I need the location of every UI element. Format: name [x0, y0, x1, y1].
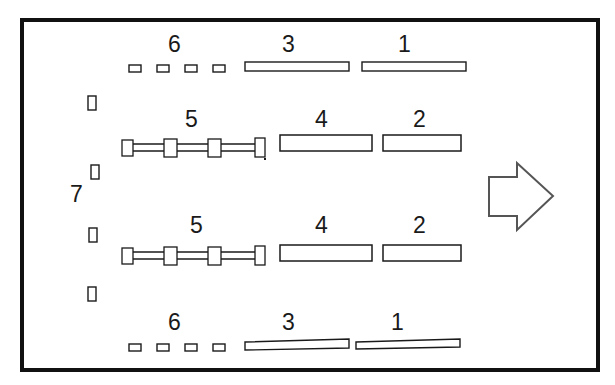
collar-mid-2: [208, 139, 221, 157]
callout-label-2-upper: 2: [413, 108, 426, 131]
figure-root: 6 3 1 5 4 2 7 5 4 2 6 3 1: [0, 0, 615, 385]
collar-mid-1: [164, 139, 177, 157]
callout-label-1-top: 1: [398, 33, 411, 56]
callout-label-5-upper: 5: [185, 108, 198, 131]
callout-label-4-lower: 4: [315, 214, 328, 237]
callout-label-7-left: 7: [70, 183, 83, 206]
callout-label-2-lower: 2: [413, 214, 426, 237]
callout-label-5-lower: 5: [190, 214, 203, 237]
collar-mid-2: [208, 247, 221, 265]
collar-left: [122, 248, 133, 264]
page-background: [0, 0, 615, 385]
collar-right: [255, 246, 265, 265]
callout-label-3-bottom: 3: [282, 311, 295, 334]
callout-label-4-upper: 4: [315, 108, 328, 131]
callout-label-6-top: 6: [168, 33, 181, 56]
callout-label-1-bottom: 1: [391, 311, 404, 334]
callout-label-6-bottom: 6: [168, 311, 181, 334]
tick-mark: [264, 158, 266, 160]
collar-left: [122, 140, 133, 156]
collar-mid-1: [164, 247, 177, 265]
technical-drawing-canvas: [0, 0, 615, 385]
callout-label-3-top: 3: [282, 33, 295, 56]
collar-right: [255, 138, 265, 157]
